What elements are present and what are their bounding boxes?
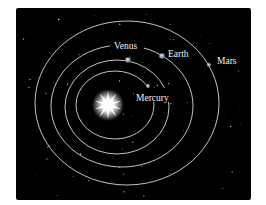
star — [143, 195, 144, 196]
star — [61, 67, 62, 68]
star — [142, 62, 143, 63]
star — [154, 87, 155, 88]
star — [230, 126, 231, 127]
star — [29, 79, 30, 80]
star — [35, 175, 36, 176]
star — [49, 52, 50, 53]
star — [162, 26, 163, 27]
star — [57, 195, 58, 196]
star — [45, 93, 47, 95]
star — [131, 115, 132, 116]
star — [32, 76, 33, 77]
star — [79, 190, 80, 191]
star — [222, 188, 223, 189]
star — [239, 106, 240, 107]
star — [58, 19, 60, 21]
star — [47, 146, 48, 147]
earth-label: Earth — [168, 49, 189, 59]
mars-planet — [207, 63, 211, 67]
star — [240, 124, 241, 125]
star — [170, 38, 171, 39]
star — [81, 76, 82, 77]
star — [132, 19, 133, 20]
star — [57, 17, 58, 18]
star — [141, 165, 142, 166]
star — [64, 109, 65, 110]
star — [168, 83, 169, 84]
star — [128, 88, 129, 89]
star — [203, 87, 204, 88]
star — [78, 54, 79, 55]
star — [88, 180, 89, 181]
star — [231, 171, 232, 172]
sun — [92, 89, 124, 121]
star — [144, 72, 145, 73]
star — [130, 57, 131, 58]
venus-label: Venus — [114, 41, 138, 51]
star — [157, 85, 158, 86]
star — [132, 141, 133, 142]
star — [81, 120, 82, 121]
star — [80, 153, 81, 154]
star — [238, 71, 239, 72]
sun-core — [102, 99, 114, 111]
star — [119, 23, 121, 25]
star — [46, 158, 48, 160]
star — [60, 133, 61, 134]
star — [73, 176, 74, 177]
star — [119, 80, 120, 81]
star — [146, 14, 147, 15]
star — [28, 87, 29, 88]
star — [224, 117, 225, 118]
star — [122, 148, 123, 149]
star — [123, 113, 125, 115]
star — [67, 83, 68, 84]
earth-planet — [159, 53, 165, 59]
star — [23, 38, 24, 39]
venus-planet — [125, 57, 131, 63]
star — [170, 103, 172, 105]
star — [200, 35, 201, 36]
mars-label: Mars — [217, 56, 237, 66]
star — [123, 191, 124, 192]
star — [183, 130, 184, 131]
star — [123, 173, 124, 174]
star — [99, 75, 100, 76]
solar-system-diagram: Mercury Venus Earth Mars — [0, 0, 266, 205]
star — [173, 39, 174, 40]
star — [94, 15, 95, 16]
mercury-label: Mercury — [136, 93, 169, 103]
star — [209, 43, 210, 44]
mercury-planet — [146, 84, 150, 88]
star — [170, 173, 171, 174]
star — [187, 102, 188, 103]
star — [169, 24, 170, 25]
